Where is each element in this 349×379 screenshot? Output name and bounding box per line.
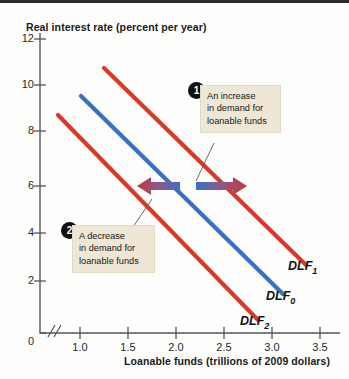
- curve-label-dlf2-sub: 2: [264, 321, 269, 331]
- curve-label-dlf1-text: DLF: [288, 259, 312, 273]
- curve-label-dlf0-text: DLF: [266, 289, 290, 303]
- loanable-funds-chart: Real interest rate (percent per year) Lo…: [0, 0, 349, 379]
- callout-increase-demand: An increase in demand for loanable funds: [200, 85, 281, 133]
- curve-label-dlf0-sub: 0: [290, 296, 295, 306]
- decrease-arrow: [137, 177, 180, 195]
- curve-label-dlf1: DLF1: [288, 259, 317, 276]
- axis-lines: [40, 33, 340, 333]
- curve-label-dlf0: DLF0: [266, 289, 295, 306]
- curve-label-dlf1-sub: 1: [312, 266, 317, 276]
- curve-label-dlf2-text: DLF: [240, 314, 264, 328]
- callout-decrease-demand: A decrease in demand for loanable funds: [72, 225, 155, 273]
- axis-break-marks: [48, 325, 61, 337]
- curve-label-dlf2: DLF2: [240, 314, 269, 331]
- curve-dlf2: [58, 115, 258, 320]
- plot-area: [0, 3, 349, 379]
